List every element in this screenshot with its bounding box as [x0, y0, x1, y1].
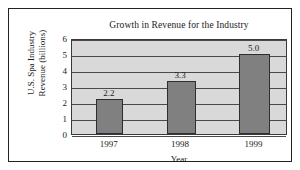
bar-value-label: 3.3: [160, 71, 200, 80]
y-axis-tick-label: 2: [53, 99, 67, 108]
plot-area: [71, 39, 287, 135]
y-axis-label: U.S. Spa Industry Revenue (billions): [23, 15, 51, 111]
gridline: [72, 136, 286, 137]
x-axis-label: Year: [71, 154, 287, 164]
x-axis-tick-label: 1998: [155, 139, 205, 149]
y-axis-tick-label: 4: [53, 67, 67, 76]
bar-value-label: 5.0: [234, 44, 274, 53]
y-axis-label-line-1: U.S. Spa Industry: [26, 31, 37, 95]
y-axis-tick-label: 5: [53, 51, 67, 60]
y-axis-ticks: 0123456: [53, 39, 67, 135]
chart-frame: Growth in Revenue for the Industry U.S. …: [8, 8, 292, 162]
y-axis-tick-label: 1: [53, 115, 67, 124]
x-axis-tick-label: 1999: [229, 139, 279, 149]
bar: [96, 99, 123, 134]
x-axis-tick-label: 1997: [84, 139, 134, 149]
y-axis-tick-label: 0: [53, 131, 67, 140]
y-axis-tick-label: 3: [53, 83, 67, 92]
y-axis-label-line-2: Revenue (billions): [37, 30, 48, 97]
gridline: [72, 40, 286, 41]
bar: [239, 54, 270, 134]
bar: [167, 81, 196, 134]
bar-value-label: 2.2: [89, 89, 129, 98]
y-axis-tick-label: 6: [53, 35, 67, 44]
chart-title: Growth in Revenue for the Industry: [71, 20, 287, 30]
